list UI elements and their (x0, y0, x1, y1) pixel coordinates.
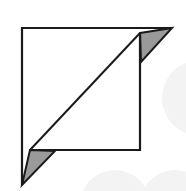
diagonal-fold-line (30, 33, 140, 150)
folded-square-diagram (0, 0, 186, 191)
bottom-left-fold (22, 150, 55, 185)
folded-square-icon (0, 0, 186, 191)
top-right-fold (140, 28, 172, 62)
